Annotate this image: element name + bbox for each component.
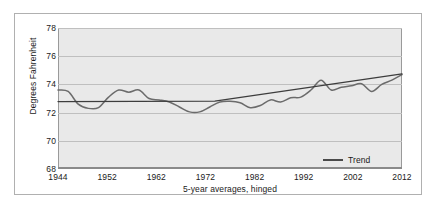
- x-tick-label: 1952: [87, 172, 127, 183]
- x-tick-label: 1962: [136, 172, 176, 183]
- chart-figure: Degrees Fahrenheit 687072747678 Trend 19…: [14, 13, 422, 195]
- x-tick-label: 2002: [333, 172, 373, 183]
- y-tick-label: 74: [34, 79, 56, 89]
- legend-item-label: Trend: [348, 155, 370, 165]
- x-tick-label: 1944: [38, 172, 78, 183]
- data-line-temperature: [58, 75, 402, 113]
- x-tick-label: 1992: [284, 172, 324, 183]
- y-tick-label: 72: [34, 108, 56, 118]
- x-tick-label: 1982: [235, 172, 275, 183]
- data-line-trend: [58, 74, 402, 102]
- series-lines: [58, 28, 402, 169]
- plot-area: Trend: [58, 28, 402, 169]
- x-axis-tick-labels: 19441952196219721982199220022012: [58, 172, 402, 184]
- y-tick-label: 70: [34, 136, 56, 146]
- legend: Trend: [323, 154, 370, 166]
- x-axis-title: 5-year averages, hinged: [58, 184, 402, 194]
- x-tick-label: 1972: [185, 172, 225, 183]
- x-tick-label: 2012: [382, 172, 422, 183]
- y-tick-label: 78: [34, 23, 56, 33]
- y-tick-label: 76: [34, 51, 56, 61]
- y-axis-tick-labels: 687072747678: [32, 28, 56, 169]
- legend-trend-line-icon: [323, 159, 343, 161]
